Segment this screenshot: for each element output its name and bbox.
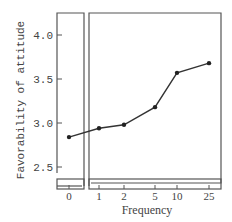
data-point — [153, 105, 157, 109]
left-panel-frame — [57, 13, 84, 186]
x-tick-label: 2 — [121, 190, 127, 202]
x-axis-title: Frequency — [122, 203, 173, 217]
data-point — [97, 126, 101, 130]
left-panel — [57, 13, 84, 186]
y-tick-label: 3.0 — [33, 118, 53, 130]
line-chart: Favorability of attitude 4.0 3.5 3.0 2.5… — [0, 0, 232, 222]
data-point — [175, 71, 179, 75]
y-tick-label: 2.5 — [33, 162, 53, 174]
x-tick-label: 1 — [96, 190, 102, 202]
x-axis-boxes — [57, 179, 221, 189]
x-tick-label: 5 — [152, 190, 158, 202]
y-axis-title: Favorability of attitude — [15, 21, 27, 179]
x-tick-label: 25 — [204, 190, 216, 202]
y-tick-label: 3.5 — [33, 74, 53, 86]
right-panel — [89, 13, 221, 186]
data-line — [69, 63, 209, 137]
x-axis-box-left — [57, 179, 84, 189]
y-tick-label: 4.0 — [33, 30, 53, 42]
right-panel-frame — [89, 13, 221, 186]
x-tick-label: 0 — [66, 190, 72, 202]
data-point — [122, 123, 126, 127]
data-point — [207, 61, 211, 65]
x-tick-label: 10 — [172, 190, 184, 202]
data-point — [67, 135, 71, 139]
y-ticks: 4.0 3.5 3.0 2.5 — [33, 30, 62, 174]
